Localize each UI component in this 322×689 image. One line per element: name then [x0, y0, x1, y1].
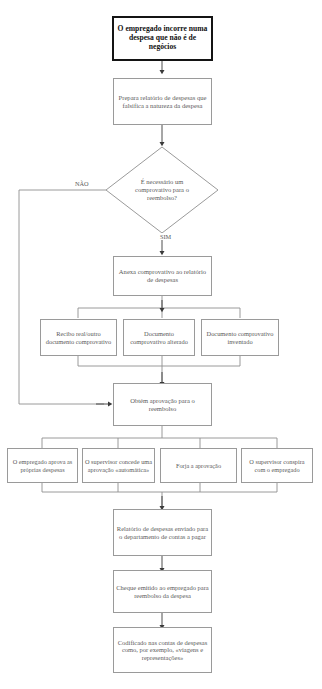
- node-aprovacao-automatica[interactable]: O supervisor concede uma aprovação «auto…: [82, 448, 155, 483]
- node-cheque-label: Cheque emitido ao empregado para reembol…: [116, 584, 209, 599]
- edge-approval-merge: [42, 483, 277, 506]
- node-obtem-aprovacao[interactable]: Obtém aprovação para o reembolso: [113, 383, 212, 426]
- node-supervisor-conspira[interactable]: O supervisor conspira com o empregado: [241, 448, 313, 483]
- node-anexa-comprovativo[interactable]: Anexa comprovativo ao relatório de despe…: [113, 256, 212, 296]
- node-aprova-proprias-despesas[interactable]: O empregado aprova as próprias despesas: [7, 448, 78, 483]
- node-enviado-label: Relatório de despesas enviado para o dep…: [116, 525, 209, 540]
- edge-anexa-fanout: [78, 296, 240, 318]
- edge-docs-merge: [78, 356, 240, 382]
- node-conspira-label: O supervisor conspira com o empregado: [244, 458, 310, 473]
- node-prepara-relatorio[interactable]: Prepara relatório de despesas que falsif…: [113, 78, 212, 125]
- node-start-label: O empregado incorre numa despesa que não…: [116, 25, 209, 52]
- node-obtem-label: Obtém aprovação para o reembolso: [116, 397, 209, 413]
- node-documento-alterado-label: Documento comprovativo alterado: [126, 330, 192, 345]
- edge-obtem-fanout: [42, 426, 277, 448]
- edge-label-sim: SIM: [159, 233, 172, 240]
- node-codificado-label: Codificado nas contas de despesas como, …: [116, 639, 209, 662]
- node-relatorio-enviado[interactable]: Relatório de despesas enviado para o dep…: [113, 509, 212, 556]
- node-decision-label: É necessário um comprovativo para o reem…: [123, 178, 201, 201]
- edge-decision-nao: [19, 190, 106, 404]
- node-anexa-label: Anexa comprovativo ao relatório de despe…: [116, 268, 209, 284]
- node-recibo-real-label: Recibo real/outro documento comprovativo: [43, 330, 114, 345]
- node-forja-label: Forja a aprovação: [163, 462, 234, 469]
- node-decision-comprovativo[interactable]: É necessário um comprovativo para o reem…: [123, 160, 201, 220]
- node-documento-inventado[interactable]: Documento comprovativo inventado: [201, 319, 279, 356]
- edge-label-nao: NÃO: [74, 180, 90, 187]
- node-forja-aprovacao[interactable]: Forja a aprovação: [160, 448, 237, 483]
- node-recibo-real[interactable]: Recibo real/outro documento comprovativo: [40, 319, 117, 356]
- node-cheque-emitido[interactable]: Cheque emitido ao empregado para reembol…: [113, 570, 212, 613]
- node-codificado-contas[interactable]: Codificado nas contas de despesas como, …: [113, 627, 212, 673]
- node-aprovacao-automatica-label: O supervisor concede uma aprovação «auto…: [85, 458, 152, 473]
- node-start[interactable]: O empregado incorre numa despesa que não…: [112, 16, 213, 61]
- node-documento-inventado-label: Documento comprovativo inventado: [204, 330, 276, 345]
- node-documento-alterado[interactable]: Documento comprovativo alterado: [123, 319, 195, 356]
- flowchart-canvas: O empregado incorre numa despesa que não…: [0, 0, 322, 689]
- node-aprova-proprias-label: O empregado aprova as próprias despesas: [10, 458, 75, 473]
- node-prepara-label: Prepara relatório de despesas que falsif…: [116, 94, 209, 110]
